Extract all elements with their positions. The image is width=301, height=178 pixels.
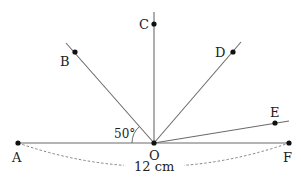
angle-label: 50° (114, 127, 135, 141)
geometry-diagram: O A F C B D E 50° 12 cm (0, 0, 301, 178)
point-o (151, 140, 156, 145)
point-e (272, 120, 277, 125)
point-c (151, 21, 156, 26)
point-a (15, 140, 20, 145)
point-b (72, 49, 77, 54)
point-f (286, 140, 291, 145)
label-e: E (270, 105, 280, 120)
ray-od (154, 42, 241, 143)
label-f: F (283, 150, 292, 165)
point-d (230, 49, 235, 54)
label-a: A (11, 150, 22, 165)
label-b: B (60, 54, 70, 69)
length-label: 12 cm (134, 159, 174, 174)
label-c: C (139, 17, 149, 32)
ray-oe (154, 121, 289, 143)
ray-ob (66, 43, 154, 143)
label-d: D (215, 45, 225, 60)
